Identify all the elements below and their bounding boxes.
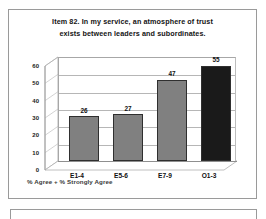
bar-value-label: 27: [107, 105, 149, 112]
figure-panel: Item 82. In my service, an atmosphere of…: [8, 9, 257, 199]
bar[interactable]: [69, 116, 99, 161]
chart-footnote: % Agree + % Strongly Agree: [27, 178, 113, 185]
y-tick-label: 10: [19, 150, 39, 156]
bar[interactable]: [113, 114, 143, 161]
scanned-page: Item 82. In my service, an atmosphere of…: [0, 0, 266, 219]
bar[interactable]: [157, 80, 187, 162]
bar-series: 26 27 47 55: [58, 57, 236, 161]
bar[interactable]: [201, 66, 231, 161]
bar-value-label: 55: [195, 56, 237, 63]
bar-value-label: 26: [63, 107, 105, 114]
y-tick-label: 60: [19, 63, 39, 69]
next-figure-panel: [10, 209, 257, 219]
y-tick-label: 20: [19, 132, 39, 138]
bar-value-label: 47: [151, 70, 193, 77]
plot-area: 60 50 40 30 20 10 0 26 27 47: [17, 48, 250, 178]
y-tick-label: 40: [19, 98, 39, 104]
x-axis-baseline: [58, 161, 237, 162]
y-axis: 60 50 40 30 20 10 0: [17, 48, 39, 178]
x-tick-label: O1-3: [186, 172, 232, 179]
y-tick-label: 30: [19, 115, 39, 121]
x-tick-label: E7-9: [142, 172, 188, 179]
y-tick-label: 50: [19, 80, 39, 86]
chart-title-line-2: exists between leaders and subordinates.: [9, 28, 256, 40]
chart-title-line-1: Item 82. In my service, an atmosphere of…: [9, 16, 256, 28]
y-tick-label: 0: [19, 167, 39, 173]
chart-title: Item 82. In my service, an atmosphere of…: [9, 16, 256, 39]
